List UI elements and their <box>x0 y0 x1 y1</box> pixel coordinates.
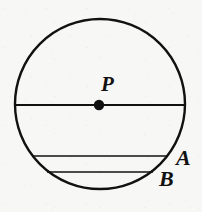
center-point-dot <box>94 100 104 110</box>
figure-canvas: P A B <box>0 0 202 212</box>
label-chord-a: A <box>176 147 191 169</box>
label-chord-b: B <box>159 168 174 190</box>
label-center-p: P <box>101 74 114 95</box>
